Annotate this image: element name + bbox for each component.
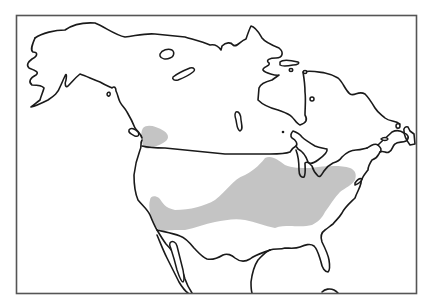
island-coats [303, 71, 307, 74]
island-anticosti [381, 138, 388, 141]
island-belcher [289, 69, 293, 72]
island-baffin-inner [280, 60, 299, 66]
coast-yucatan-hint [322, 289, 338, 293]
range-main-eastern [149, 157, 356, 231]
lake-great-slave [235, 112, 242, 131]
island-hudson-small [310, 97, 314, 101]
island-baja-gulf [170, 242, 185, 282]
range-map: Species distribution range map of North … [0, 0, 426, 300]
map-border [17, 16, 417, 294]
species-range [141, 126, 355, 231]
coast-newfoundland [404, 127, 415, 145]
island-dot [282, 131, 285, 134]
island-alaska-panhandle [107, 92, 110, 96]
islands [107, 49, 400, 282]
coast-border-canada-us [142, 146, 296, 154]
island-victoria [173, 68, 195, 80]
coast-arctic-alaska [35, 23, 400, 125]
coast-great-lakes [291, 131, 327, 163]
map-canvas [0, 0, 426, 300]
island-banks [160, 49, 174, 59]
island-pei [396, 124, 400, 128]
coastlines [28, 23, 415, 293]
range-pacific-northwest [141, 126, 168, 149]
coast-alaska-west [28, 38, 142, 138]
